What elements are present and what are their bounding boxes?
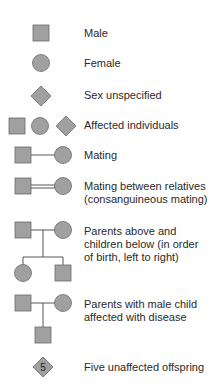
label-male: Male [84, 27, 108, 40]
label-five-offspring: Five unaffected offspring [84, 361, 204, 374]
parent-female-icon [55, 222, 72, 239]
label-consanguineous: Mating between relatives (consanguineous… [84, 180, 208, 206]
affected-male-icon [9, 118, 25, 134]
label-affected-male-child: Parents with male child affected with di… [84, 298, 197, 324]
consanguineous-male-icon [15, 178, 31, 194]
offspring-count: 5 [40, 362, 46, 373]
consanguineous-female-icon [55, 178, 72, 195]
affected-female-icon [32, 118, 49, 135]
label-female: Female [84, 57, 121, 70]
mating-female-icon [55, 147, 72, 164]
affected-male-child-icon [35, 327, 51, 343]
male-square-icon [33, 25, 49, 41]
label-sex-unspecified: Sex unspecified [84, 89, 162, 102]
label-parents-children: Parents above and children below (in ord… [84, 225, 198, 264]
mating-male-icon [15, 147, 31, 163]
parent-male-icon [15, 222, 31, 238]
child-male-icon [55, 265, 71, 281]
child-female-icon [15, 265, 32, 282]
female-circle-icon [33, 55, 50, 72]
label-mating: Mating [84, 149, 117, 162]
parent2-female-icon [55, 295, 72, 312]
label-affected: Affected individuals [84, 119, 179, 132]
affected-unspecified-icon [56, 116, 76, 136]
parent2-male-icon [15, 295, 31, 311]
unspecified-diamond-icon [31, 86, 51, 106]
